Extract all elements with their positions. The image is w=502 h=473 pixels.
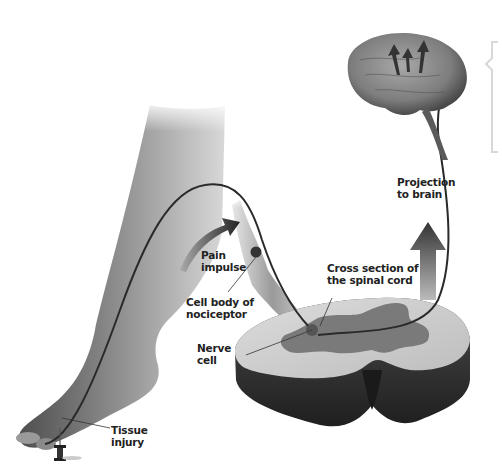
spinal-cord-cross-section	[235, 298, 470, 426]
page-bracket	[486, 42, 498, 152]
leg-illustration	[16, 100, 235, 450]
label-cross-section: Cross section of the spinal cord	[327, 262, 418, 286]
label-projection-to-brain: Projection to brain	[397, 176, 455, 200]
nociceptor-cell-body	[251, 247, 262, 258]
label-pain-impulse: Pain impulse	[201, 249, 246, 273]
label-nerve-cell: Nerve cell	[197, 342, 231, 366]
brain-illustration	[348, 33, 467, 160]
pain-pathway-diagram: Projection to brain Pain impulse Cross s…	[0, 0, 502, 473]
projection-arrow	[410, 222, 446, 300]
illustration	[0, 0, 502, 473]
label-tissue-injury: Tissue injury	[111, 424, 148, 448]
label-cell-body: Cell body of nociceptor	[186, 296, 254, 320]
